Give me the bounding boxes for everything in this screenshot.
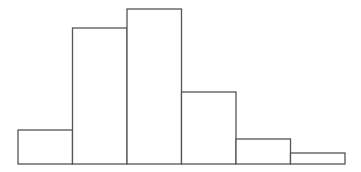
histogram-chart bbox=[0, 0, 361, 172]
histogram-bar-3 bbox=[127, 9, 182, 164]
histogram-bar-2 bbox=[73, 28, 128, 164]
histogram-bar-4 bbox=[182, 92, 237, 164]
histogram-bar-1 bbox=[18, 130, 73, 164]
histogram-bar-5 bbox=[236, 139, 291, 164]
histogram-bars bbox=[18, 9, 345, 164]
histogram-bar-6 bbox=[291, 153, 346, 164]
